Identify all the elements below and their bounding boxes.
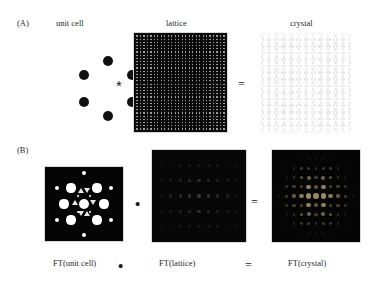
lattice-point xyxy=(196,84,197,85)
lattice-point xyxy=(147,87,148,88)
crystal-motif-dot xyxy=(320,128,322,130)
crystal-motif-dot xyxy=(328,111,330,113)
lattice-point xyxy=(147,84,148,85)
ft-crystal-point xyxy=(314,185,318,189)
lattice-point xyxy=(196,80,197,81)
lattice-point xyxy=(182,55,183,56)
lattice-point xyxy=(192,39,193,40)
ft-lattice-point xyxy=(197,210,200,213)
lattice-point xyxy=(216,90,217,91)
lattice-point xyxy=(175,96,176,97)
crystal-motif-dot xyxy=(275,61,277,63)
lattice-point xyxy=(147,128,148,129)
lattice-point xyxy=(220,128,221,129)
lattice-point xyxy=(164,90,165,91)
crystal-motif-dot xyxy=(334,88,336,90)
lattice-point xyxy=(209,51,210,52)
lattice-point xyxy=(223,55,224,56)
lattice-point xyxy=(185,87,186,88)
lattice-point xyxy=(199,84,200,85)
lattice-point xyxy=(223,42,224,43)
lattice-point xyxy=(175,58,176,59)
ft-crystal-point xyxy=(314,176,317,179)
ft-lattice-point xyxy=(197,194,201,198)
crystal-motif-dot xyxy=(268,75,270,77)
crystal-motif-dot xyxy=(298,55,300,57)
lattice-point xyxy=(147,100,148,101)
crystal-motif-dot xyxy=(283,121,285,123)
ft-crystal-point xyxy=(286,167,288,169)
ft-crystal-point xyxy=(321,193,326,198)
lattice-point xyxy=(199,77,200,78)
lattice-point xyxy=(136,71,137,72)
crystal-motif-dot xyxy=(336,85,338,87)
lattice-point xyxy=(154,106,155,107)
lattice-point xyxy=(168,80,169,81)
lattice-point xyxy=(150,128,151,129)
lattice-point xyxy=(192,109,193,110)
crystal-motif-dot xyxy=(269,33,271,34)
ft-unit-cell-spot xyxy=(109,218,114,223)
lattice-point xyxy=(203,39,204,40)
ft-lattice-point xyxy=(179,164,182,167)
crystal-motif-dot xyxy=(305,94,307,96)
lattice-point xyxy=(192,90,193,91)
ft-crystal-point xyxy=(293,167,295,169)
crystal-motif-dot xyxy=(274,104,276,106)
lattice-point xyxy=(178,87,179,88)
crystal-motif-dot xyxy=(334,75,336,77)
lattice-point xyxy=(203,112,204,113)
lattice-point xyxy=(154,48,155,49)
crystal-motif-dot xyxy=(327,61,329,63)
lattice-point xyxy=(216,100,217,101)
lattice-point xyxy=(140,109,141,110)
ft-crystal-point xyxy=(293,213,296,216)
lattice-point xyxy=(143,55,144,56)
lattice-point xyxy=(189,51,190,52)
lattice-point xyxy=(185,35,186,36)
crystal-motif-dot xyxy=(306,131,308,132)
lattice-point xyxy=(216,103,217,104)
lattice-point xyxy=(185,112,186,113)
crystal-motif-dot xyxy=(306,38,308,40)
lattice-point xyxy=(175,55,176,56)
crystal-motif-dot xyxy=(343,33,345,34)
lattice-point xyxy=(171,74,172,75)
crystal-motif-dot xyxy=(305,75,307,77)
ft-crystal-point xyxy=(299,194,303,198)
lattice-point xyxy=(199,90,200,91)
lattice-point xyxy=(220,87,221,88)
lattice-point xyxy=(157,67,158,68)
lattice-point xyxy=(136,48,137,49)
crystal-motif-dot xyxy=(299,98,301,100)
crystal-motif-dot xyxy=(349,101,351,103)
lattice-point xyxy=(140,35,141,36)
crystal-motif-dot xyxy=(348,98,350,100)
lattice-point xyxy=(164,35,165,36)
crystal-motif-dot xyxy=(291,104,293,106)
lattice-point xyxy=(171,48,172,49)
lattice-point xyxy=(171,96,172,97)
lattice-point xyxy=(140,51,141,52)
lattice-point xyxy=(220,125,221,126)
lattice-point xyxy=(147,39,148,40)
lattice-point xyxy=(136,58,137,59)
crystal-motif-dot xyxy=(283,55,285,57)
crystal-motif-dot xyxy=(298,121,300,123)
ft-crystal-point xyxy=(307,212,311,216)
crystal-motif-dot xyxy=(336,118,338,120)
crystal-motif-dot xyxy=(305,121,307,123)
lattice-point xyxy=(196,39,197,40)
lattice-point xyxy=(220,71,221,72)
lattice-point xyxy=(147,93,148,94)
ft-lattice-point xyxy=(226,210,229,213)
crystal-motif-dot xyxy=(336,52,338,54)
lattice-point xyxy=(178,109,179,110)
lattice-point xyxy=(143,71,144,72)
lattice-point xyxy=(175,87,176,88)
lattice-point xyxy=(185,128,186,129)
lattice-point xyxy=(220,122,221,123)
crystal-motif-dot xyxy=(342,55,344,57)
ft-lattice-point xyxy=(188,225,191,228)
crystal-motif-dot xyxy=(336,65,338,67)
